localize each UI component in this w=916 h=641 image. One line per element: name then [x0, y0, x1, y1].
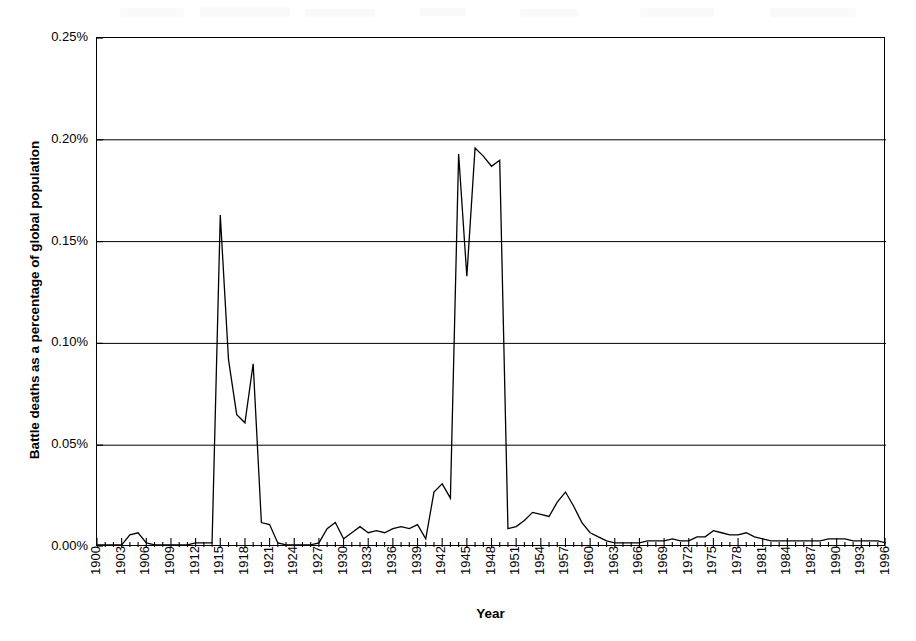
y-axis-tick-marks	[97, 38, 103, 547]
y-tick-label: 0.20%	[32, 132, 88, 145]
x-tick-label: 1963	[607, 546, 621, 596]
x-tick-label: 1942	[434, 546, 448, 596]
x-tick-label: 1945	[459, 546, 473, 596]
x-tick-label: 1930	[336, 546, 350, 596]
battle-deaths-line-chart: Battle deaths as a percentage of global …	[0, 0, 916, 641]
y-tick-label: 0.05%	[32, 437, 88, 450]
scan-artifact	[200, 7, 290, 17]
x-tick-label: 1975	[705, 546, 719, 596]
y-tick-label: 0.25%	[32, 30, 88, 43]
x-tick-label: 1924	[286, 546, 300, 596]
x-tick-label: 1909	[163, 546, 177, 596]
x-tick-label: 1927	[311, 546, 325, 596]
y-tick-label: 0.10%	[32, 335, 88, 348]
x-tick-label: 1948	[484, 546, 498, 596]
scan-artifact	[305, 9, 375, 17]
x-tick-label: 1936	[385, 546, 399, 596]
x-tick-label: 1903	[114, 546, 128, 596]
scan-artifact	[420, 8, 466, 16]
x-tick-label: 1960	[582, 546, 596, 596]
y-tick-label: 0.00%	[32, 539, 88, 552]
x-tick-label: 1969	[656, 546, 670, 596]
x-tick-label: 1984	[779, 546, 793, 596]
x-axis-title: Year	[96, 606, 885, 621]
x-tick-label: 1996	[878, 546, 892, 596]
y-tick-label: 0.15%	[32, 234, 88, 247]
scan-artifact	[770, 8, 856, 17]
x-tick-label: 1978	[730, 546, 744, 596]
y-axis-tick-labels: 0.00%0.05%0.10%0.15%0.20%0.25%	[30, 0, 88, 641]
scan-artifact	[120, 8, 184, 17]
data-series-line	[97, 148, 886, 545]
plot-area	[96, 37, 885, 546]
x-tick-label: 1915	[212, 546, 226, 596]
x-tick-label: 1987	[804, 546, 818, 596]
x-tick-label: 1954	[533, 546, 547, 596]
x-tick-label: 1972	[681, 546, 695, 596]
x-tick-label: 1933	[360, 546, 374, 596]
x-tick-label: 1921	[262, 546, 276, 596]
x-tick-label: 1990	[829, 546, 843, 596]
x-tick-label: 1906	[138, 546, 152, 596]
x-axis-tick-labels: 1900190319061909191219151918192119241927…	[96, 546, 896, 606]
x-tick-label: 1918	[237, 546, 251, 596]
scan-artifact	[520, 9, 578, 17]
x-tick-label: 1966	[631, 546, 645, 596]
x-tick-label: 1957	[557, 546, 571, 596]
plot-svg	[97, 38, 886, 547]
x-tick-label: 1951	[508, 546, 522, 596]
x-tick-label: 1900	[89, 546, 103, 596]
x-tick-label: 1981	[755, 546, 769, 596]
x-tick-label: 1993	[853, 546, 867, 596]
x-tick-label: 1912	[188, 546, 202, 596]
x-tick-label: 1939	[410, 546, 424, 596]
scan-artifact	[640, 8, 714, 17]
